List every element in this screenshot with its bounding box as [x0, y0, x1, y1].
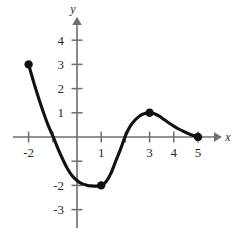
y-tick-label-4: 4: [58, 33, 65, 48]
x-tick-label--2: -2: [23, 145, 34, 160]
curve-point: [194, 133, 202, 141]
y-tick-label--3: -3: [53, 202, 64, 217]
graph-figure: -2 1 3 4 5 4 3 2 1 -2 -3 y x: [0, 0, 237, 236]
curve-point: [145, 109, 153, 117]
x-axis-arrowhead: [214, 132, 222, 142]
x-tick-label-1: 1: [98, 145, 105, 160]
y-axis-label: y: [69, 2, 76, 16]
x-tick-label-4: 4: [171, 145, 178, 160]
x-axis-label: x: [224, 130, 231, 144]
curve-point: [97, 181, 105, 189]
y-tick-label-3: 3: [58, 57, 65, 72]
plot-svg: -2 1 3 4 5 4 3 2 1 -2 -3 y x: [0, 0, 237, 236]
y-tick-label-1: 1: [58, 105, 65, 120]
x-tick-label-5: 5: [195, 145, 202, 160]
y-tick-label--2: -2: [53, 178, 64, 193]
x-tick-label-3: 3: [146, 145, 153, 160]
y-tick-label-2: 2: [58, 81, 65, 96]
function-curve: [29, 64, 198, 186]
curve-point: [24, 60, 32, 68]
y-axis-arrowhead: [72, 17, 82, 25]
